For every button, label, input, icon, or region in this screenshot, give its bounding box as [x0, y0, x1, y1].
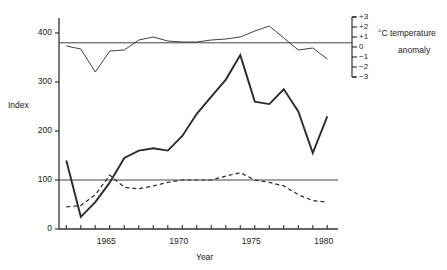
right-tick-label: −1: [359, 52, 368, 61]
right-tick-label: +2: [359, 22, 368, 31]
y-tick-label: 300: [22, 76, 52, 86]
x-tick-label: 1980: [314, 236, 333, 246]
series-index-thick-solid: [66, 55, 327, 217]
axes-group: [55, 17, 357, 229]
right-axis-label-line2: anomaly: [398, 45, 430, 55]
x-tick-label: 1970: [169, 236, 188, 246]
right-tick-label: −2: [359, 62, 368, 71]
x-tick-label: 1965: [97, 236, 116, 246]
right-tick-label: −3: [359, 72, 368, 81]
series-temperature-anomaly: [66, 26, 327, 72]
x-axis-label: Year: [196, 252, 213, 262]
right-axis-label-line1: °C temperature: [378, 28, 436, 38]
temperature-anomaly-index-chart: Index Year °C temperature anomaly 010020…: [0, 0, 447, 270]
y-axis-label: Index: [8, 100, 29, 110]
right-tick-label: +3: [359, 12, 368, 21]
data-curves-group: [66, 26, 327, 217]
right-tick-label: 0: [359, 42, 363, 51]
plot-area: [0, 0, 447, 270]
x-tick-label: 1975: [242, 236, 261, 246]
right-tick-label: +1: [359, 32, 368, 41]
y-tick-label: 400: [22, 27, 52, 37]
y-tick-label: 0: [22, 223, 52, 233]
reference-lines-group: [59, 43, 352, 180]
y-tick-label: 100: [22, 174, 52, 184]
y-tick-label: 200: [22, 125, 52, 135]
